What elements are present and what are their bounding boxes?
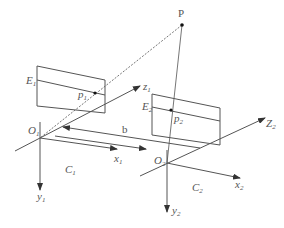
image-plane-1 bbox=[37, 66, 105, 113]
baseline-arrow bbox=[63, 127, 200, 148]
label-c1: C1 bbox=[65, 163, 76, 177]
label-x2: x2 bbox=[234, 178, 244, 192]
stereo-camera-diagram: P E1 p1 z1 O1 x1 C1 y1 b E2 p2 Z2 O2 x2 … bbox=[0, 0, 284, 228]
image-plane-2 bbox=[152, 94, 220, 145]
label-z1: z1 bbox=[142, 80, 151, 94]
label-y1: y1 bbox=[36, 190, 45, 204]
label-z2: Z2 bbox=[266, 117, 276, 131]
label-p: P bbox=[178, 7, 184, 19]
label-p1: p1 bbox=[77, 88, 87, 102]
projection-p2 bbox=[169, 108, 172, 111]
label-x1: x1 bbox=[113, 152, 122, 166]
projection-p1 bbox=[93, 91, 96, 94]
label-e2: E2 bbox=[141, 100, 153, 114]
ray-p-to-o1 bbox=[40, 25, 182, 138]
camera2-x-axis bbox=[167, 163, 240, 178]
label-b: b bbox=[122, 123, 128, 135]
camera2-z-axis bbox=[140, 118, 265, 176]
ray-p-to-o2 bbox=[167, 25, 182, 163]
label-o2: O2 bbox=[154, 154, 166, 168]
label-c2: C2 bbox=[192, 181, 203, 195]
point-p bbox=[180, 23, 184, 27]
label-y2: y2 bbox=[171, 204, 181, 218]
label-p2: p2 bbox=[173, 112, 184, 126]
label-o1: O1 bbox=[28, 124, 39, 138]
label-e1: E1 bbox=[25, 74, 36, 88]
image-plane-2-epipolar-line bbox=[152, 107, 220, 121]
